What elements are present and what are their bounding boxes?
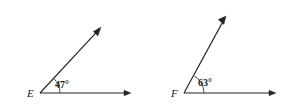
angle-f-horizontal-arrowhead (269, 90, 276, 96)
figure-angle-f: F 63° (0, 0, 286, 112)
angle-f-svg: F 63° (0, 0, 286, 112)
angle-f-vertex-label: F (170, 87, 178, 99)
angle-f-measure-label: 63° (198, 77, 212, 88)
angle-diagram-canvas: E 47° F 63° (0, 0, 286, 112)
